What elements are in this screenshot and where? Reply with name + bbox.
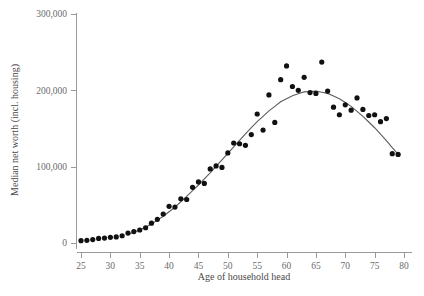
data-point (225, 150, 230, 155)
data-point (137, 227, 142, 232)
data-point (249, 132, 254, 137)
x-axis: 253035404550556065707580 (76, 253, 412, 272)
y-tick-label: 0 (62, 238, 67, 248)
data-point (166, 204, 171, 209)
data-point (337, 112, 342, 117)
y-axis: 0100,000200,000300,000 (36, 9, 76, 249)
data-point (319, 59, 324, 64)
data-point (202, 181, 207, 186)
data-point (120, 233, 125, 238)
data-point (290, 84, 295, 89)
x-tick-label: 40 (164, 261, 174, 271)
x-axis-title: Age of household head (198, 271, 290, 282)
data-point (96, 236, 101, 241)
data-point (272, 120, 277, 125)
data-point (325, 89, 330, 94)
data-point (178, 196, 183, 201)
data-point (172, 205, 177, 210)
data-point (90, 237, 95, 242)
data-point (343, 102, 348, 107)
data-point (131, 229, 136, 234)
data-point (313, 91, 318, 96)
data-point (378, 119, 383, 124)
data-point (143, 225, 148, 230)
data-point (161, 211, 166, 216)
data-point (260, 127, 265, 132)
x-tick-label: 60 (282, 261, 292, 271)
data-point (84, 238, 89, 243)
y-axis-title: Median net worth (incl. housing) (9, 64, 21, 196)
data-point (390, 151, 395, 156)
data-point (284, 63, 289, 68)
x-tick-label: 65 (311, 261, 321, 271)
x-tick-label: 25 (76, 261, 86, 271)
data-point (255, 111, 260, 116)
data-point (278, 77, 283, 82)
y-tick-group: 0100,000200,000300,000 (36, 9, 76, 248)
x-tick-group: 253035404550556065707580 (76, 253, 409, 272)
data-point (196, 179, 201, 184)
y-tick-label: 300,000 (36, 9, 67, 19)
y-tick-label: 200,000 (36, 86, 67, 96)
data-point (208, 166, 213, 171)
data-point (78, 238, 83, 243)
x-tick-label: 70 (341, 261, 351, 271)
data-point (354, 95, 359, 100)
data-point (372, 112, 377, 117)
data-point (114, 234, 119, 239)
data-point (266, 92, 271, 97)
data-point (125, 230, 130, 235)
data-point (219, 165, 224, 170)
data-point (149, 221, 154, 226)
data-point (331, 105, 336, 110)
data-point (366, 113, 371, 118)
x-tick-label: 55 (252, 261, 262, 271)
data-point (307, 90, 312, 95)
data-point (243, 143, 248, 148)
scatter-chart: 0100,000200,000300,000 25303540455055606… (0, 0, 424, 296)
data-point-group (78, 59, 400, 243)
x-tick-label: 35 (135, 261, 145, 271)
data-point (231, 140, 236, 145)
data-point (349, 108, 354, 113)
data-point (296, 88, 301, 93)
x-tick-label: 80 (399, 261, 409, 271)
data-point (384, 116, 389, 121)
data-point (155, 217, 160, 222)
data-point (108, 235, 113, 240)
x-tick-label: 30 (106, 261, 116, 271)
data-point (184, 197, 189, 202)
data-point (396, 152, 401, 157)
figure-container: 0100,000200,000300,000 25303540455055606… (0, 0, 424, 296)
data-point (102, 235, 107, 240)
x-tick-label: 45 (194, 261, 204, 271)
x-tick-label: 50 (223, 261, 233, 271)
trend-curve (128, 91, 398, 235)
y-tick-label: 100,000 (36, 162, 67, 172)
x-tick-label: 75 (370, 261, 380, 271)
data-point (237, 141, 242, 146)
data-point (360, 107, 365, 112)
data-point (302, 75, 307, 80)
data-point (213, 163, 218, 168)
data-point (190, 185, 195, 190)
